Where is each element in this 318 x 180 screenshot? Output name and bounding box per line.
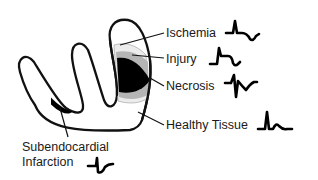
- ischemia-label: Ischemia: [166, 26, 216, 40]
- subendocardial-label-line2: Infarction: [22, 155, 73, 169]
- infarction-zones: [114, 44, 150, 103]
- ecg-injury-icon: [210, 48, 240, 65]
- diagram-canvas: Ischemia Injury Necrosis Healthy Tissue …: [0, 0, 318, 180]
- injury-label: Injury: [166, 52, 197, 66]
- necrosis-label: Necrosis: [166, 79, 215, 93]
- ecg-ischemia-icon: [226, 21, 259, 40]
- subendocardial-label-line1: Subendocardial: [22, 140, 109, 154]
- ecg-subendocardial-icon: [88, 158, 113, 172]
- ecg-normal-icon: [258, 112, 292, 129]
- healthy-tissue-label: Healthy Tissue: [166, 118, 248, 132]
- ecg-necrosis-icon: [225, 75, 257, 97]
